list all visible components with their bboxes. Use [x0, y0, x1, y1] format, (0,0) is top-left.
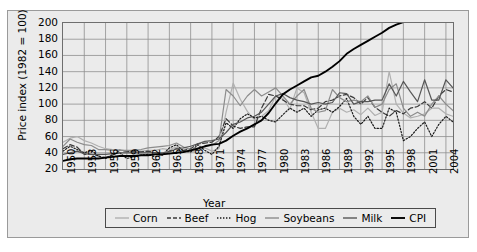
chart-figure: Price index (1982 = 100) 204060801001201…	[7, 10, 469, 238]
legend-swatch-cpi-icon	[391, 213, 405, 223]
y-tick-label: 200	[18, 17, 58, 28]
x-tick-label: 1980	[280, 149, 290, 174]
x-tick-label: 2001	[429, 149, 439, 174]
legend-label: Corn	[133, 212, 158, 224]
x-tick-label: 1977	[258, 149, 268, 174]
legend-label: Soybeans	[283, 212, 334, 224]
legend-item-beef[interactable]: Beef	[165, 212, 211, 224]
legend-item-cpi[interactable]: CPI	[389, 212, 428, 224]
y-tick-label: 140	[18, 66, 58, 77]
plot-area-wrapper: 20406080100120140160180200 1950195319561…	[62, 22, 454, 170]
y-tick-label: 20	[18, 163, 58, 174]
x-tick-label: 1971	[216, 149, 226, 174]
legend-item-corn[interactable]: Corn	[113, 212, 160, 224]
legend-swatch-beef-icon	[167, 213, 181, 223]
legend-label: Hog	[235, 212, 256, 224]
x-tick-label: 1998	[407, 149, 417, 174]
legend-label: Beef	[185, 212, 209, 224]
chart-legend: CornBeefHogSoybeansMilkCPI	[105, 208, 436, 228]
legend-item-milk[interactable]: Milk	[341, 212, 384, 224]
legend-item-hog[interactable]: Hog	[215, 212, 258, 224]
y-tick-label: 160	[18, 49, 58, 60]
y-tick-label: 180	[18, 33, 58, 44]
x-tick-label: 1965	[173, 149, 183, 174]
x-tick-label: 1995	[386, 149, 396, 174]
legend-item-soybeans[interactable]: Soybeans	[263, 212, 336, 224]
x-tick-label: 1989	[344, 149, 354, 174]
x-tick-label: 1974	[237, 149, 247, 174]
y-tick-label: 80	[18, 114, 58, 125]
legend-swatch-corn-icon	[115, 213, 129, 223]
y-tick-label: 40	[18, 147, 58, 158]
x-tick-label: 1983	[301, 149, 311, 174]
x-tick-label: 1959	[131, 149, 141, 174]
legend-swatch-hog-icon	[217, 213, 231, 223]
x-tick-label: 2004	[450, 149, 460, 174]
y-tick-label: 120	[18, 82, 58, 93]
chart-canvas	[63, 23, 453, 169]
series-line-beef	[63, 90, 453, 158]
x-tick-label: 1986	[322, 149, 332, 174]
legend-swatch-soybeans-icon	[265, 213, 279, 223]
legend-label: Milk	[361, 212, 382, 224]
y-tick-label: 60	[18, 131, 58, 142]
x-tick-label: 1953	[88, 149, 98, 174]
x-tick-label: 1956	[110, 149, 120, 174]
legend-label: CPI	[409, 212, 426, 224]
x-tick-label: 1992	[365, 149, 375, 174]
x-tick-label: 1950	[67, 149, 77, 174]
x-tick-label: 1962	[152, 149, 162, 174]
y-tick-label: 100	[18, 98, 58, 109]
legend-swatch-milk-icon	[343, 213, 357, 223]
x-tick-label: 1968	[195, 149, 205, 174]
